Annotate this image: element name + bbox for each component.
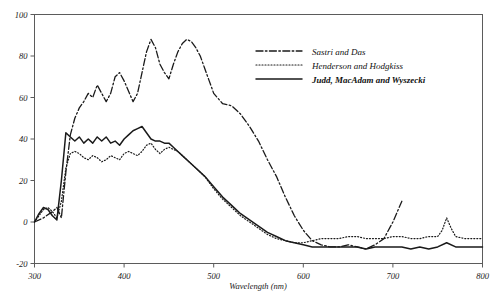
x-tick-label: 600 — [297, 271, 311, 281]
y-tick-label: 20 — [19, 176, 28, 186]
x-tick-label: 500 — [207, 271, 221, 281]
y-tick-label: 100 — [15, 10, 29, 20]
legend-label: Henderson and Hodgkiss — [311, 61, 403, 71]
x-tick-label: 300 — [27, 271, 42, 281]
chart-container: -20020406080100 300400500600700800 Wavel… — [0, 0, 497, 301]
y-tick-label: 40 — [19, 134, 28, 144]
x-tick-label: 700 — [387, 271, 401, 281]
y-tick-label: 80 — [19, 51, 28, 61]
chart-background — [0, 0, 497, 301]
x-tick-label: 800 — [476, 271, 490, 281]
x-tick-label: 400 — [118, 271, 132, 281]
legend-label: Judd, MacAdam and Wyszecki — [311, 75, 426, 85]
x-axis-title: Wavelength (nm) — [229, 281, 287, 291]
spectral-line-chart: -20020406080100 300400500600700800 Wavel… — [0, 0, 497, 301]
y-tick-label: -20 — [16, 259, 28, 269]
legend-label: Sastri and Das — [312, 47, 366, 57]
y-tick-label: 60 — [19, 93, 28, 103]
